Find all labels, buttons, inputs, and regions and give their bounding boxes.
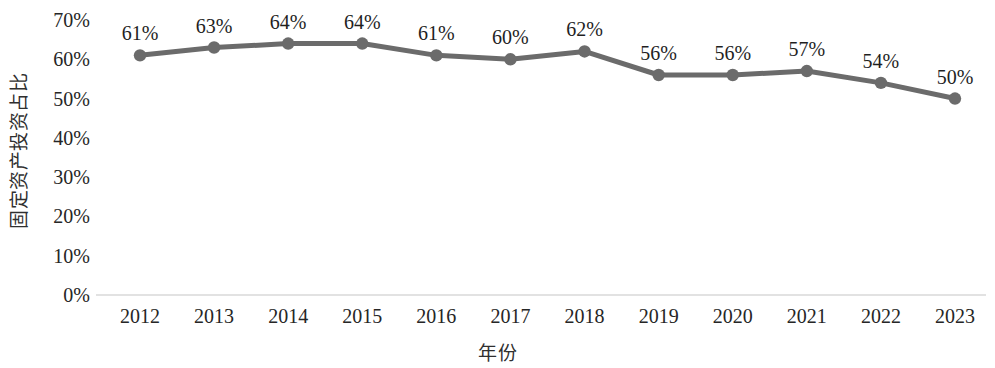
x-axis-tick-label: 2013 [194, 303, 234, 329]
data-point-label: 56% [640, 43, 677, 63]
data-point-label: 62% [566, 19, 603, 39]
y-axis-tick-label: 70% [53, 10, 90, 30]
data-point-marker [801, 65, 813, 77]
data-point-marker [578, 45, 590, 57]
data-point-label: 60% [492, 27, 529, 47]
data-point-marker [727, 69, 739, 81]
y-axis-tick-label: 60% [53, 49, 90, 69]
x-axis-tick-label: 2021 [787, 303, 827, 329]
data-point-marker [875, 77, 887, 89]
data-point-marker [504, 53, 516, 65]
data-point-marker [208, 41, 220, 53]
y-axis-tick-label: 10% [53, 246, 90, 266]
data-point-label: 61% [418, 23, 455, 43]
y-axis-title: 固定资产投资占比 [0, 0, 34, 300]
y-axis-tick-label: 20% [53, 206, 90, 226]
data-point-marker [356, 37, 368, 49]
x-axis-tick-label: 2020 [713, 303, 753, 329]
data-point-label: 50% [937, 67, 974, 87]
x-axis-tick-label: 2022 [861, 303, 901, 329]
x-axis-tick-label: 2015 [342, 303, 382, 329]
x-axis-tick-label: 2012 [120, 303, 160, 329]
y-axis-tick-label: 40% [53, 128, 90, 148]
y-axis-tick-label: 0% [63, 285, 90, 305]
y-axis-tick-label: 50% [53, 89, 90, 109]
data-point-label: 64% [344, 12, 381, 32]
plot-svg [96, 8, 986, 298]
x-axis-tick-label: 2019 [639, 303, 679, 329]
data-point-label: 54% [863, 51, 900, 71]
x-axis-tick-label: 2018 [565, 303, 605, 329]
data-point-label: 64% [270, 12, 307, 32]
x-axis-title: 年份 [0, 338, 995, 365]
data-point-marker [430, 49, 442, 61]
line-chart: 固定资产投资占比 70%60%50%40%30%20%10%0% 61%63%6… [0, 0, 995, 368]
y-axis-title-text: 固定资产投资占比 [4, 72, 31, 228]
plot-area: 61%63%64%64%61%60%62%56%56%57%54%50% [96, 8, 986, 298]
y-axis-tick-label: 30% [53, 167, 90, 187]
data-point-marker [652, 69, 664, 81]
x-axis-tick-label: 2014 [268, 303, 308, 329]
data-point-label: 63% [196, 16, 233, 36]
y-axis-tick-labels: 70%60%50%40%30%20%10%0% [34, 0, 96, 300]
data-point-marker [282, 37, 294, 49]
data-point-label: 56% [714, 43, 751, 63]
x-axis-tick-label: 2016 [416, 303, 456, 329]
data-point-marker [949, 92, 961, 104]
x-axis-tick-labels: 2012201320142015201620172018201920202021… [0, 303, 995, 333]
data-point-marker [134, 49, 146, 61]
x-axis-tick-label: 2023 [935, 303, 975, 329]
data-point-label: 61% [122, 23, 159, 43]
data-point-label: 57% [788, 39, 825, 59]
series-line [140, 44, 955, 99]
x-axis-tick-label: 2017 [490, 303, 530, 329]
